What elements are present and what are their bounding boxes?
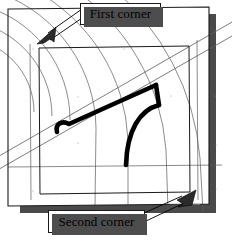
callout-second-corner[interactable]: Second corner [48, 210, 145, 233]
speckle [78, 97, 79, 98]
speckle [171, 96, 172, 97]
figure-container: First corner Second corner [0, 0, 236, 240]
speckle [33, 191, 34, 192]
callout-first-corner-label: First corner [90, 6, 152, 22]
speckle [216, 145, 217, 146]
speckle [216, 189, 217, 190]
speckle [33, 49, 34, 50]
callout-second-corner-label: Second corner [58, 214, 134, 230]
technical-illustration [0, 0, 236, 240]
speckle [124, 49, 125, 50]
callout-first-corner[interactable]: First corner [80, 3, 161, 25]
speckle [78, 143, 79, 144]
profile-right-step [156, 85, 159, 105]
speckle [215, 96, 216, 97]
